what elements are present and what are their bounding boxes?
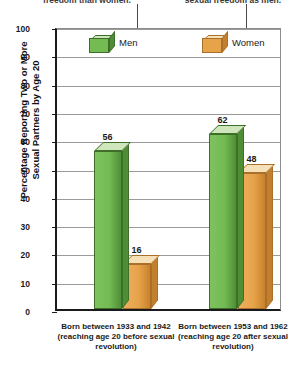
y-tick-label: 100 [0, 24, 30, 34]
y-tick-mark [52, 171, 57, 172]
bar-value-label: 62 [206, 115, 240, 125]
y-tick-label: 50 [0, 166, 30, 176]
y-tick-mark [52, 284, 57, 285]
bar-value-label: 56 [91, 132, 125, 142]
bar-men-group-1 [209, 134, 237, 309]
y-tick-mark [52, 227, 57, 228]
gridline [57, 29, 280, 30]
y-tick-mark [52, 86, 57, 87]
caption-right-text: sexual freedom as men. [166, 0, 300, 5]
y-tick-mark [52, 114, 57, 115]
y-tick-mark [52, 199, 57, 200]
gridline [57, 142, 280, 143]
y-tick-mark [52, 57, 57, 58]
bar-front-face [94, 151, 122, 309]
bar-side-face [266, 164, 273, 309]
legend-label-men: Men [119, 37, 137, 48]
y-tick-label: 70 [0, 109, 30, 119]
gridline [57, 86, 280, 87]
y-tick-label: 40 [0, 194, 30, 204]
y-tick-label: 90 [0, 52, 30, 62]
y-tick-mark [52, 142, 57, 143]
y-tick-label: 20 [0, 250, 30, 260]
y-tick-mark [52, 255, 57, 256]
legend-cube-women-icon [202, 35, 222, 53]
bar-front-face [209, 134, 237, 309]
bar-men-group-0 [94, 151, 122, 309]
y-tick-label: 10 [0, 279, 30, 289]
legend-label-women: Women [232, 37, 265, 48]
bar-side-face [122, 142, 129, 309]
category-label-0: Born between 1933 and 1942 (reaching age… [57, 322, 175, 352]
gridline [57, 114, 280, 115]
y-tick-label: 0 [0, 307, 30, 317]
gridline [57, 57, 280, 58]
y-tick-label: 80 [0, 81, 30, 91]
legend-cube-men-icon [89, 35, 109, 53]
y-tick-label: 30 [0, 222, 30, 232]
caption-left-text: freedom than women. [22, 0, 152, 5]
y-tick-mark [52, 312, 57, 313]
bar-side-face [237, 125, 244, 309]
y-tick-mark [52, 29, 57, 30]
y-tick-label: 60 [0, 137, 30, 147]
category-label-1: Born between 1953 and 1962 (reaching age… [173, 322, 293, 352]
chart-plot-area: 1009080706050403020100 56166248 Men Wome… [55, 28, 281, 311]
